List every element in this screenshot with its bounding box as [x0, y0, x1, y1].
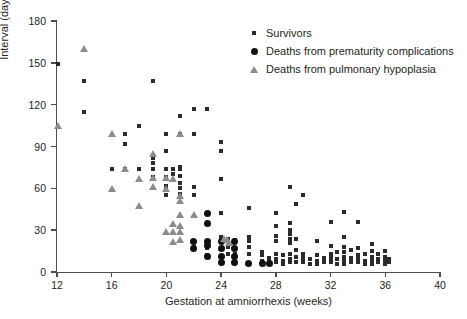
- data-point-circle: [204, 242, 211, 249]
- data-point-square: [288, 260, 292, 264]
- data-point-square: [363, 262, 367, 266]
- data-point-square: [247, 239, 251, 243]
- data-point-square: [301, 260, 305, 264]
- data-point-square: [82, 110, 86, 114]
- data-point-circle: [190, 245, 197, 252]
- chart-legend: SurvivorsDeaths from prematurity complic…: [248, 24, 454, 78]
- data-point-square: [192, 132, 196, 136]
- data-point-square: [178, 167, 182, 171]
- x-tick-mark: [220, 272, 221, 277]
- x-tick-mark: [330, 272, 331, 277]
- data-point-triangle: [190, 211, 198, 218]
- data-point-square: [294, 260, 298, 264]
- data-point-square: [164, 149, 168, 153]
- y-tick-mark: [51, 188, 56, 189]
- data-point-square: [342, 245, 346, 249]
- data-point-square: [294, 237, 298, 241]
- data-point-square: [376, 252, 380, 256]
- legend-label: Deaths from pulmonary hypoplasia: [266, 64, 436, 75]
- legend-label: Deaths from prematurity complications: [266, 46, 454, 57]
- data-point-square: [226, 252, 230, 256]
- data-point-circle: [204, 220, 211, 227]
- data-point-square: [376, 260, 380, 264]
- data-point-circle: [190, 238, 197, 245]
- x-axis-label: Gestation at amniorrhexis (weeks): [57, 295, 440, 307]
- data-point-square: [178, 186, 182, 190]
- data-point-square: [370, 262, 374, 266]
- y-tick-label: 30: [0, 225, 46, 236]
- data-point-square: [356, 220, 360, 224]
- legend-label: Survivors: [266, 28, 312, 39]
- data-point-square: [274, 234, 278, 238]
- legend-circle-icon: [248, 48, 260, 55]
- x-tick-label: 28: [256, 280, 296, 291]
- data-point-square: [151, 161, 155, 165]
- y-tick-mark: [51, 62, 56, 63]
- data-point-square: [164, 132, 168, 136]
- x-tick-label: 40: [420, 280, 460, 291]
- data-point-square: [308, 262, 312, 266]
- data-point-square: [363, 252, 367, 256]
- y-tick-label: 90: [0, 142, 46, 153]
- data-point-square: [329, 260, 333, 264]
- y-tick-mark: [51, 104, 56, 105]
- x-tick-label: 12: [37, 280, 77, 291]
- data-point-square: [56, 62, 60, 66]
- data-point-square: [164, 193, 168, 197]
- data-point-square: [288, 252, 292, 256]
- y-tick-mark: [51, 271, 56, 272]
- data-point-square: [281, 262, 285, 266]
- data-point-triangle: [176, 211, 184, 218]
- x-tick-label: 24: [201, 280, 241, 291]
- data-point-triangle: [176, 236, 184, 243]
- y-tick-label: 120: [0, 100, 46, 111]
- data-point-square: [356, 246, 360, 250]
- data-point-square: [137, 167, 141, 171]
- data-point-square: [335, 262, 339, 266]
- x-tick-mark: [275, 272, 276, 277]
- data-point-square: [164, 167, 168, 171]
- data-point-square: [151, 79, 155, 83]
- data-point-square: [288, 221, 292, 225]
- data-point-square: [342, 210, 346, 214]
- data-point-triangle: [80, 45, 88, 52]
- data-point-square: [219, 149, 223, 153]
- data-point-circle: [266, 260, 273, 267]
- y-tick-mark: [51, 146, 56, 147]
- data-point-square: [274, 239, 278, 243]
- y-tick-label: 60: [0, 183, 46, 194]
- data-point-square: [274, 260, 278, 264]
- data-point-square: [82, 79, 86, 83]
- data-point-triangle: [108, 185, 116, 192]
- data-point-square: [288, 185, 292, 189]
- data-point-circle: [204, 210, 211, 217]
- data-point-square: [123, 132, 127, 136]
- data-point-circle: [231, 259, 238, 266]
- data-point-square: [137, 124, 141, 128]
- x-tick-label: 32: [311, 280, 351, 291]
- data-point-square: [205, 107, 209, 111]
- legend-triangle-icon: [248, 66, 260, 73]
- data-point-square: [342, 262, 346, 266]
- data-point-square: [349, 248, 353, 252]
- legend-item: Deaths from pulmonary hypoplasia: [248, 60, 454, 78]
- data-point-square: [349, 260, 353, 264]
- legend-square-icon: [248, 31, 260, 35]
- data-point-square: [178, 174, 182, 178]
- data-point-square: [288, 241, 292, 245]
- data-point-triangle: [176, 228, 184, 235]
- data-point-triangle: [162, 185, 170, 192]
- data-point-circle: [218, 245, 225, 252]
- legend-item: Deaths from prematurity complications: [248, 42, 454, 60]
- data-point-square: [178, 114, 182, 118]
- data-point-square: [322, 260, 326, 264]
- x-tick-mark: [385, 272, 386, 277]
- data-point-square: [260, 253, 264, 257]
- data-point-square: [342, 235, 346, 239]
- data-point-square: [247, 206, 251, 210]
- data-point-square: [219, 140, 223, 144]
- x-tick-label: 20: [146, 280, 186, 291]
- data-point-square: [301, 193, 305, 197]
- data-point-square: [315, 239, 319, 243]
- data-point-triangle: [149, 183, 157, 190]
